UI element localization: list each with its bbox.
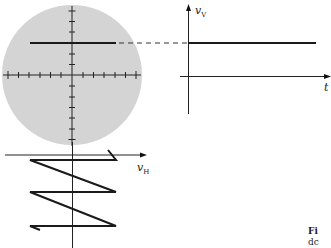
vh-arrow-icon [140, 153, 147, 158]
vv-label-sub: V [201, 11, 206, 19]
time-label-text: t [324, 81, 328, 94]
vh-label: vH [137, 162, 149, 176]
vh-label-sub: H [143, 168, 149, 176]
vertical-signal-plot [180, 4, 331, 114]
horizontal-sweep-plot [5, 142, 147, 248]
oscilloscope-diagram [0, 0, 331, 248]
caption-line-1: Fi [308, 226, 318, 236]
caption-line-2: dc [308, 237, 319, 247]
vv-label: vV [195, 5, 206, 19]
vv-arrow-icon [186, 4, 191, 11]
time-label: t [324, 82, 328, 93]
time-arrow-icon [324, 74, 331, 79]
figure-caption: Fi dc [308, 226, 319, 248]
